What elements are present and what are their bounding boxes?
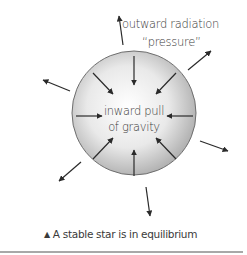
inward-label-line2: of gravity [94, 122, 174, 134]
figure-caption: ▲A stable star is in equilibrium [44, 228, 197, 240]
triangle-marker-icon: ▲ [44, 230, 50, 239]
outward-arrow-icon [59, 162, 81, 181]
outward-arrow-icon [200, 141, 228, 151]
inward-label-line1: inward pull [94, 106, 174, 118]
outward-arrow-icon [43, 80, 70, 91]
caption-text: A stable star is in equilibrium [53, 228, 197, 240]
outward-label-line2: “pressure” [142, 37, 201, 49]
stellar-equilibrium-diagram: outward radiation “pressure” inward pull… [0, 0, 247, 255]
outward-label-line1: outward radiation [122, 19, 219, 31]
bottom-divider [0, 251, 243, 253]
outward-arrow-icon [188, 51, 211, 70]
outward-arrow-icon [146, 187, 150, 216]
